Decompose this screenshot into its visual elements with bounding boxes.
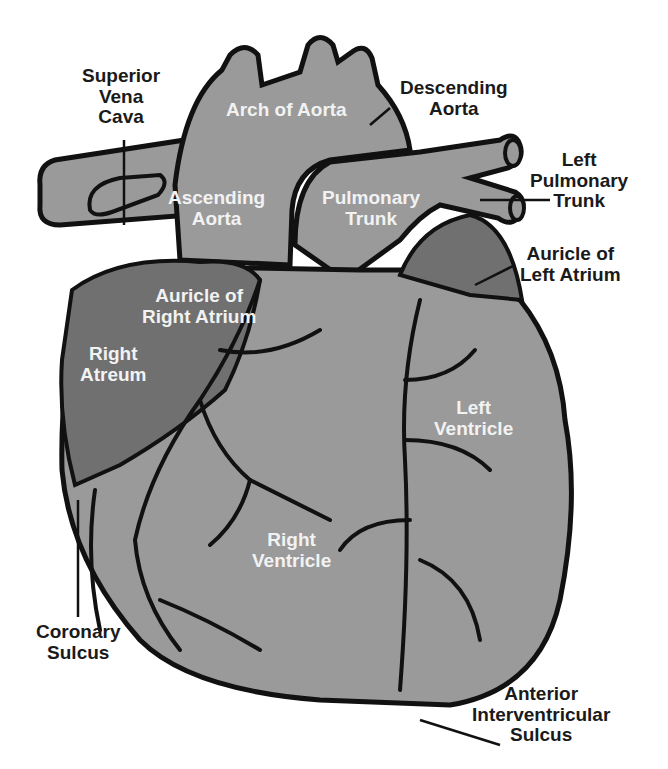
label-line: Descending [400, 78, 508, 99]
label-line: Right [252, 530, 331, 551]
label-ascending-aorta: Ascending Aorta [168, 188, 265, 229]
label-line: Trunk [322, 209, 420, 230]
label-left-pulmonary-trunk: Left Pulmonary Trunk [530, 150, 628, 212]
label-left-ventricle: Left Ventricle [434, 398, 513, 439]
label-line: Atreum [80, 365, 147, 386]
label-line: Coronary [36, 622, 120, 643]
label-line: Arch of Aorta [226, 100, 347, 121]
label-line: Superior [82, 66, 160, 87]
label-line: Auricle of [520, 244, 621, 265]
label-line: Auricle of [142, 286, 256, 307]
label-line: Sulcus [472, 725, 610, 746]
label-line: Anterior [472, 684, 610, 705]
label-line: Right Atrium [142, 307, 256, 328]
label-line: Ascending [168, 188, 265, 209]
label-line: Right [80, 344, 147, 365]
label-line: Cava [82, 107, 160, 128]
label-line: Pulmonary [530, 171, 628, 192]
label-line: Ventricle [252, 551, 331, 572]
label-right-ventricle: Right Ventricle [252, 530, 331, 571]
label-anterior-interventricular-sulcus: Anterior Interventricular Sulcus [472, 684, 610, 746]
label-line: Interventricular [472, 705, 610, 726]
label-line: Ventricle [434, 419, 513, 440]
label-descending-aorta: Descending Aorta [400, 78, 508, 119]
label-right-atreum: Right Atreum [80, 344, 147, 385]
label-line: Sulcus [36, 643, 120, 664]
label-auricle-right-atrium: Auricle of Right Atrium [142, 286, 256, 327]
label-pulmonary-trunk: Pulmonary Trunk [322, 188, 420, 229]
label-line: Left [434, 398, 513, 419]
label-line: Aorta [400, 99, 508, 120]
label-line: Pulmonary [322, 188, 420, 209]
label-coronary-sulcus: Coronary Sulcus [36, 622, 120, 663]
label-arch-of-aorta: Arch of Aorta [226, 100, 347, 121]
label-line: Vena [82, 87, 160, 108]
label-auricle-left-atrium: Auricle of Left Atrium [520, 244, 621, 285]
label-line: Aorta [168, 209, 265, 230]
label-superior-vena-cava: Superior Vena Cava [82, 66, 160, 128]
label-line: Left Atrium [520, 265, 621, 286]
label-line: Trunk [530, 191, 628, 212]
label-line: Left [530, 150, 628, 171]
